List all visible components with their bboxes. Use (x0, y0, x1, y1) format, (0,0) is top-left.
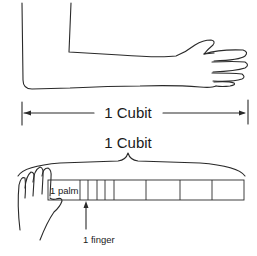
hand-illustration (18, 167, 62, 240)
cubit-diagram: 1 Cubit 1 Cubit 1 palm 1 finger (0, 0, 257, 256)
arm-cubit-dimension: 1 Cubit (22, 100, 248, 125)
arm-cubit-label: 1 Cubit (104, 104, 152, 121)
arrowhead-up-icon (84, 201, 89, 208)
ruler-bar: 1 palm (48, 180, 244, 200)
finger-pointer: 1 finger (83, 201, 115, 245)
cubit-brace (18, 153, 245, 176)
finger-label: 1 finger (83, 234, 115, 245)
ruler-cubit-label: 1 Cubit (104, 134, 152, 151)
arm-illustration (22, 3, 248, 89)
arrowhead-left-icon (24, 111, 31, 116)
arrowhead-right-icon (239, 111, 246, 116)
palm-label: 1 palm (50, 185, 79, 196)
